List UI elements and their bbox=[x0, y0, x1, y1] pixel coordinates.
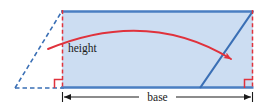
geometry-diagram-canvas: height base bbox=[0, 0, 265, 112]
base-label: base bbox=[147, 91, 167, 103]
height-label: height bbox=[68, 42, 98, 55]
parallelogram-area-figure: height base bbox=[0, 0, 265, 112]
